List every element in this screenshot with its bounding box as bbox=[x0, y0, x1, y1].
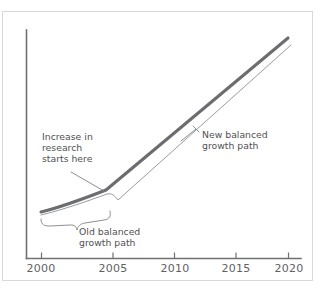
figure-canvas: 2000 2005 2010 2015 2020 Increase in res… bbox=[0, 0, 329, 290]
series-line-new-balanced bbox=[41, 38, 288, 212]
leader-line-increase-in-research bbox=[71, 172, 104, 191]
annotation-new-path-line-2: growth path bbox=[202, 140, 268, 151]
x-tick-label-2005: 2005 bbox=[99, 262, 128, 275]
annotation-increase-line-3: starts here bbox=[42, 153, 93, 164]
leader-line-new-balanced-growth-path bbox=[181, 126, 199, 141]
x-tick-label-2015: 2015 bbox=[222, 262, 251, 275]
x-tick-label-2000: 2000 bbox=[27, 262, 56, 275]
annotation-old-path-line-2: growth path bbox=[79, 237, 140, 248]
x-tick-label-2010: 2010 bbox=[161, 262, 190, 275]
annotation-new-balanced-growth-path: New balanced growth path bbox=[202, 129, 268, 151]
annotation-old-balanced-growth-path: Old balanced growth path bbox=[79, 226, 140, 248]
annotation-increase-line-2: research bbox=[42, 142, 93, 153]
annotation-increase-line-1: Increase in bbox=[42, 131, 93, 142]
x-tick-label-2020: 2020 bbox=[275, 262, 304, 275]
x-axis-ticks bbox=[42, 253, 289, 259]
annotation-old-path-line-1: Old balanced bbox=[79, 226, 140, 237]
annotation-new-path-line-1: New balanced bbox=[202, 129, 268, 140]
annotation-increase-in-research: Increase in research starts here bbox=[42, 131, 93, 164]
